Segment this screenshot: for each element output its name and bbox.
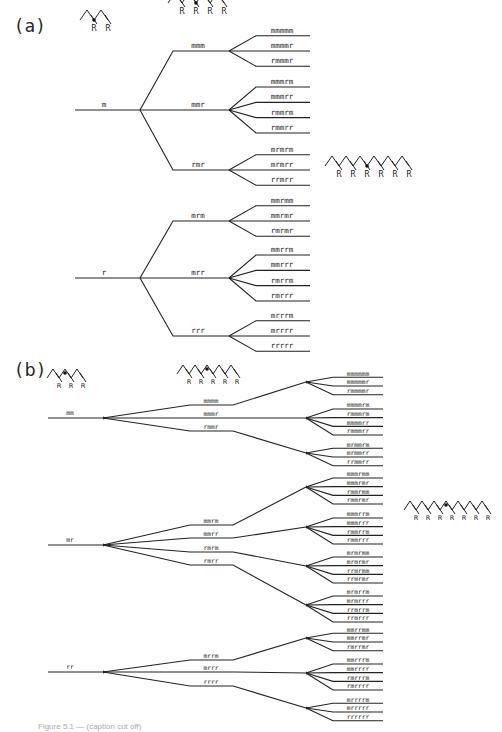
r-substituent-label: R xyxy=(193,7,199,16)
leaf-edge xyxy=(306,638,383,642)
hexad-icon: RRRRRR xyxy=(325,156,412,179)
leaf-label: rmrrmr xyxy=(347,643,370,650)
leaf-edge xyxy=(229,270,310,278)
r-substituent-label: R xyxy=(207,7,213,16)
panel-a-tree: mmmmmmmmmmmmmrrmmmrmmrmmmrmmmmrrrmmrmrmm… xyxy=(75,26,310,352)
leaf-label: rmmrm xyxy=(271,108,294,117)
branch-edge xyxy=(140,278,229,336)
r-substituent-label: R xyxy=(211,378,216,386)
leaf-label: mmrrrr xyxy=(347,665,370,672)
leaf-edge xyxy=(306,377,383,382)
leaf-label: rmmmrm xyxy=(347,410,370,417)
branch-mmmr: mmmrmmmmrmrmmmrmmmmmrrrmmmrr xyxy=(103,401,383,435)
r-substituent-label: R xyxy=(179,7,185,16)
leaf-edge xyxy=(229,206,310,221)
stereocenter-dot-icon xyxy=(92,18,96,22)
leaf-label: rrrrr xyxy=(271,341,294,350)
branch-label: mrm xyxy=(191,211,205,220)
panel-a-label: (a) xyxy=(16,16,46,36)
r-substituent-label: R xyxy=(336,170,342,179)
leaf-label: rmmmrr xyxy=(347,427,370,434)
leaf-label: mrrrr xyxy=(271,326,294,335)
leaf-label: rmmrmr xyxy=(347,496,370,503)
leaf-label: rrmrmr xyxy=(347,575,370,582)
branch-edge xyxy=(140,51,229,110)
root-label: mr xyxy=(66,536,74,543)
root-label: rr xyxy=(66,663,74,670)
stereocenter-dot-icon xyxy=(194,1,198,5)
r-substituent-label: R xyxy=(392,170,398,179)
tree-root-mr: mrmmrmmmmrmmmmmrmrrmmrmmrmmrmrmmrrmmmrrm… xyxy=(48,470,383,622)
leaf-edge xyxy=(306,382,383,386)
root-label: mm xyxy=(66,409,74,416)
branch-mrr: mrrmmrrmmmrrrrmrrmrmrrr xyxy=(140,245,310,301)
leaf-label: mrmrmm xyxy=(347,549,370,556)
stereocenter-dot-icon xyxy=(63,371,67,375)
leaf-label: mrrrm xyxy=(271,311,294,320)
branch-mrrm: mrrmmmrrmmmmrrmrrmrrmr xyxy=(103,626,383,673)
leaf-label: mrrrrm xyxy=(347,696,370,703)
branch-rrr: rrrmrrrmmrrrrrrrrr xyxy=(140,278,310,351)
leaf-edge xyxy=(229,336,310,351)
leaf-label: mmrrrm xyxy=(347,656,370,663)
leaf-label: mmrrm xyxy=(271,245,294,254)
leaf-label: rmmrmm xyxy=(347,488,370,495)
leaf-label: mmmmrr xyxy=(347,419,370,426)
leaf-label: mmmmmm xyxy=(347,370,370,377)
leaf-label: mmmrr xyxy=(271,92,294,101)
leaf-label: rmrrrm xyxy=(347,674,370,681)
leaf-edge xyxy=(306,664,383,673)
r-substituent-label: R xyxy=(364,170,370,179)
leaf-label: rrmrr xyxy=(271,175,294,184)
branch-label: mmm xyxy=(191,41,205,50)
branch-label: mmr xyxy=(191,100,205,109)
root-label: m xyxy=(102,100,107,109)
leaf-edge xyxy=(306,708,383,712)
branch-label: mrrr xyxy=(204,664,219,671)
r-substituent-label: R xyxy=(486,514,491,522)
figure-caption: Figure 5.1 — (caption cut off) xyxy=(38,722,142,731)
branch-edge xyxy=(140,110,229,170)
r-substituent-label: R xyxy=(426,514,431,522)
leaf-edge xyxy=(306,518,383,527)
r-substituent-label: R xyxy=(91,24,97,33)
branch-rmrm: rmrmmrmrmmmrmrmrrrmrmmrrmrmr xyxy=(103,544,383,584)
r-substituent-label: R xyxy=(474,514,479,522)
leaf-edge xyxy=(306,448,383,453)
r-substituent-label: R xyxy=(462,514,467,522)
r-substituent-label: R xyxy=(105,24,111,33)
tree-root-m: mmmmmmmmmmmmmrrmmmrmmrmmmrmmmmrrrmmrmrmm… xyxy=(75,26,310,186)
leaf-label: rrmmrr xyxy=(347,458,370,465)
r-substituent-label: R xyxy=(81,382,86,390)
triad-icon: RRR xyxy=(47,369,86,390)
leaf-label: mrmrrr xyxy=(347,597,370,604)
tree-root-r: rmrmmmrmmmmrmrrmrmrmrrmmrrmmmrrrrmrrmrmr… xyxy=(75,196,310,352)
tetrad-icon: RRRR xyxy=(168,0,227,16)
r-substituent-label: R xyxy=(221,7,227,16)
leaf-edge xyxy=(229,110,310,118)
leaf-edge xyxy=(229,102,310,110)
leaf-edge xyxy=(306,557,383,566)
r-substituent-label: R xyxy=(406,170,412,179)
leaf-edge xyxy=(306,409,383,418)
branch-label: rrr xyxy=(191,326,205,335)
leaf-label: mrmrrm xyxy=(347,588,370,595)
leaf-label: mmmmr xyxy=(271,41,294,50)
r-substituent-label: R xyxy=(223,378,228,386)
leaf-edge xyxy=(306,633,383,638)
branch-mmrm: mmrmmmmrmmmmmrmrrmmrmmrmmrmr xyxy=(103,470,383,545)
leaf-label: mrmrr xyxy=(271,160,294,169)
r-substituent-label: R xyxy=(235,378,240,386)
branch-rrrr: rrrrmrrrrmmrrrrrrrrrrr xyxy=(103,672,383,721)
leaf-label: mrmrmr xyxy=(347,558,370,565)
branch-label: mmrr xyxy=(204,530,219,537)
leaf-edge xyxy=(229,278,310,286)
branch-edge xyxy=(140,221,229,278)
leaf-edge xyxy=(229,321,310,336)
leaf-label: mmrmm xyxy=(271,196,294,205)
leaf-label: mmrrmm xyxy=(347,626,370,633)
tree-root-rr: rrmrrmmmrrmmmmrrmrrmrrmrmrrrmmrrrmmmrrrr… xyxy=(48,626,383,721)
branch-label: rmr xyxy=(191,160,205,169)
leaf-label: rrmrrr xyxy=(347,614,370,621)
leaf-edge xyxy=(229,36,310,51)
